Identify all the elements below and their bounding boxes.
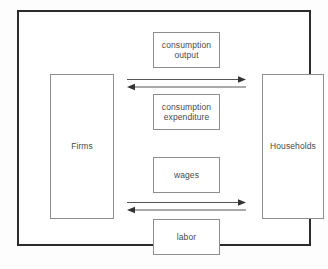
arrow-lower-rightward — [127, 199, 246, 206]
flow-label-consumption-expenditure: consumption expenditure — [153, 94, 220, 130]
flow-label-consumption-output-text: consumption output — [162, 40, 211, 61]
flow-label-wages-text: wages — [174, 170, 199, 181]
arrow-lower-leftward — [127, 207, 246, 214]
flow-label-labor: labor — [153, 219, 220, 255]
node-firms-label: Firms — [71, 141, 93, 152]
arrow-group-lower — [127, 199, 246, 213]
arrow-group-upper — [127, 76, 246, 90]
node-firms: Firms — [50, 74, 114, 219]
flow-label-wages: wages — [153, 157, 220, 193]
arrow-upper-leftward — [127, 84, 246, 91]
node-households: Households — [262, 74, 324, 219]
diagram-canvas: Firms Households consumption output cons… — [0, 0, 328, 269]
arrow-upper-rightward — [127, 76, 246, 83]
flow-label-consumption-output: consumption output — [153, 32, 220, 68]
flow-label-consumption-expenditure-text: consumption expenditure — [162, 102, 211, 123]
flow-label-labor-text: labor — [177, 232, 196, 243]
diagram-outer-frame: Firms Households consumption output cons… — [17, 10, 311, 246]
node-households-label: Households — [270, 141, 316, 152]
